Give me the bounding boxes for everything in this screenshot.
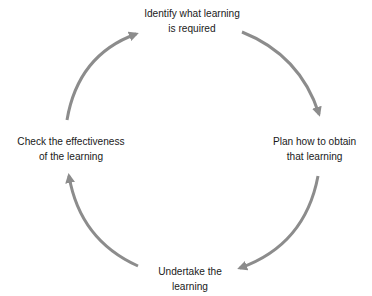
node-undertake-line1: Undertake the bbox=[128, 264, 251, 279]
node-plan-line1: Plan how to obtain bbox=[260, 134, 369, 149]
node-identify-line1: Identify what learning bbox=[122, 6, 263, 21]
arrow-undertake-to-check bbox=[69, 176, 138, 266]
arrow-plan-to-undertake bbox=[240, 176, 318, 268]
node-check-effectiveness: Check the effectiveness of the learning bbox=[5, 134, 137, 164]
arrow-check-to-identify bbox=[67, 34, 136, 120]
node-check-line2: of the learning bbox=[5, 149, 137, 164]
node-plan-line2: that learning bbox=[260, 149, 369, 164]
node-check-line1: Check the effectiveness bbox=[5, 134, 137, 149]
node-undertake-line2: learning bbox=[128, 279, 251, 294]
node-identify-line2: is required bbox=[122, 21, 263, 36]
arrow-identify-to-plan bbox=[242, 32, 319, 114]
node-identify-learning: Identify what learning is required bbox=[122, 6, 263, 36]
node-plan-learning: Plan how to obtain that learning bbox=[260, 134, 369, 164]
node-undertake-learning: Undertake the learning bbox=[128, 264, 251, 294]
